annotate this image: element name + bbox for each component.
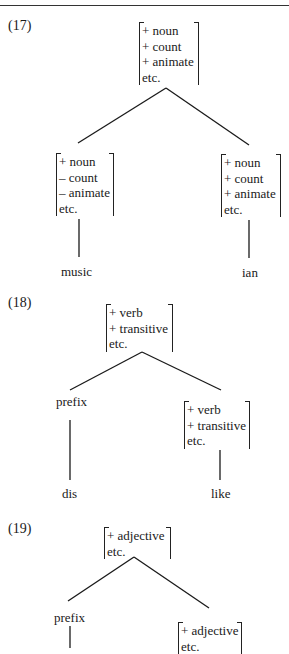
feature-matrix-right-19: + adjective etc. (178, 622, 242, 654)
feature: + noun (59, 154, 111, 170)
feature: + animate (224, 186, 278, 202)
leaf-word-dis: dis (62, 486, 77, 502)
feature: + verb (187, 402, 247, 418)
feature: + animate (142, 54, 196, 70)
feature: etc. (181, 639, 239, 654)
feature: + adjective (181, 623, 239, 639)
feature: etc. (109, 336, 170, 352)
feature: – animate (59, 185, 111, 201)
feature-matrix-root-18: + verb + transitive etc. (106, 304, 173, 352)
feature: + count (224, 171, 278, 187)
feature-matrix-right-18: + verb + transitive etc. (184, 401, 250, 449)
example-label-17: (17) (8, 18, 31, 34)
feature: etc. (59, 201, 111, 217)
node-prefix-18: prefix (56, 394, 87, 410)
leaf-word-ian: ian (242, 265, 258, 281)
feature: – count (59, 170, 111, 186)
feature: + transitive (109, 321, 170, 337)
feature: + noun (142, 23, 196, 39)
feature: etc. (142, 70, 196, 86)
feature: + verb (109, 305, 170, 321)
feature: + noun (224, 155, 278, 171)
example-label-19: (19) (8, 521, 31, 537)
feature-matrix-root-17: + noun + count + animate etc. (139, 22, 199, 85)
feature: etc. (107, 544, 168, 560)
feature: + count (142, 39, 196, 55)
leaf-word-like: like (211, 486, 231, 502)
feature-matrix-root-19: + adjective etc. (104, 527, 171, 559)
feature-matrix-left-17: + noun – count – animate etc. (56, 153, 114, 216)
node-prefix-19: prefix (54, 610, 85, 626)
feature: etc. (224, 202, 278, 218)
feature: + transitive (187, 418, 247, 434)
example-label-18: (18) (8, 295, 31, 311)
leaf-word-music: music (61, 264, 92, 280)
feature: + adjective (107, 528, 168, 544)
feature-matrix-right-17: + noun + count + animate etc. (221, 154, 281, 217)
feature: etc. (187, 433, 247, 449)
